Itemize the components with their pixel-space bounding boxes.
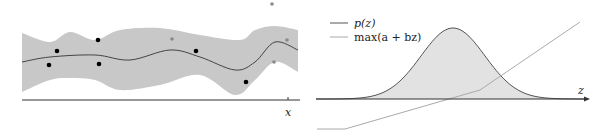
- z-axis-label: z: [577, 84, 584, 97]
- observed-point: [47, 63, 52, 68]
- observed-point: [96, 38, 101, 43]
- observed-point: [55, 49, 60, 54]
- candidate-point: [270, 2, 274, 6]
- z-axis-arrow-icon: [584, 97, 590, 102]
- observed-point: [194, 49, 199, 54]
- legend: p(z) max(a + bz): [330, 17, 421, 44]
- observed-point: [244, 80, 249, 85]
- legend-label-p: p(z): [354, 17, 375, 30]
- gp-panel: x: [22, 2, 300, 119]
- candidate-point: [170, 37, 174, 41]
- chart-canvas: x z p(z) max(a + bz): [0, 0, 609, 135]
- x-axis-label: x: [285, 106, 292, 119]
- observed-point: [97, 62, 102, 67]
- legend-label-max: max(a + bz): [354, 31, 421, 44]
- acquisition-panel: z p(z) max(a + bz): [316, 17, 590, 129]
- candidate-point: [285, 38, 289, 42]
- candidate-point: [272, 60, 276, 64]
